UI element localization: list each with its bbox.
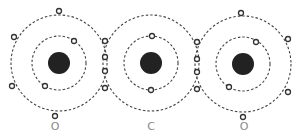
right-oxygen-nucleus xyxy=(232,53,254,75)
atom-label-right-oxygen: O xyxy=(234,120,254,133)
atom-shells-svg xyxy=(0,0,300,140)
left-oxygen-nucleus xyxy=(48,52,70,74)
atom-label-left-oxygen: O xyxy=(45,120,65,133)
carbon-nucleus xyxy=(140,52,162,74)
atom-label-carbon: C xyxy=(141,120,161,133)
co2-diagram: O C O xyxy=(0,0,300,140)
